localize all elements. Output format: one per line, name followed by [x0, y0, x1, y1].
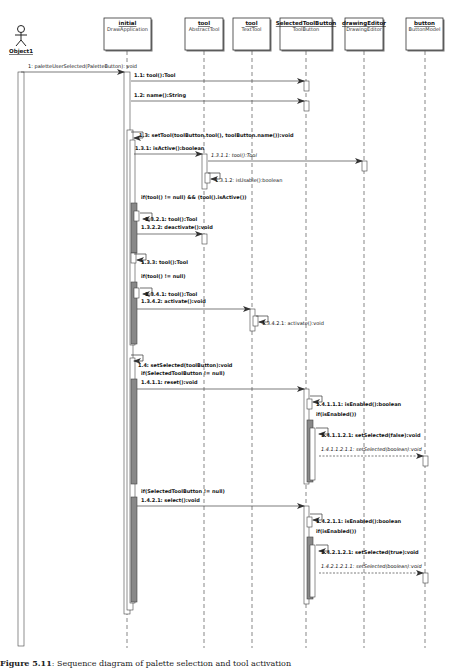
figure-caption: Figure 5.11: Sequence diagram of palette… [0, 658, 453, 668]
activation-bar [423, 456, 428, 466]
activation-bar [202, 154, 207, 189]
message-label: 1.2: name():String [134, 92, 186, 99]
actor-object1: Object1 [9, 26, 33, 56]
message-m1_4_1_1_2_1_1: 1.4.1.1.2.1.1: setSelected(boolean):void [319, 446, 423, 456]
message-label: 1.3.4.2.1: activate():void [262, 320, 324, 326]
lifeline-tool2: toolTextTool [233, 18, 272, 648]
message-m1_4: 1.4: setSelected(toolButton):void [131, 355, 233, 368]
message-label: 1.3.1: isActive():boolean [135, 145, 205, 151]
message-label: 1.3.2.1: tool():Tool [145, 216, 198, 222]
message-m1_3_4_2: 1.3.4.2: activate():void [137, 298, 250, 309]
message-label: 1.4: setSelected(toolButton):void [138, 362, 233, 368]
message-m1_2: 1.2: name():String [131, 92, 304, 101]
guard-condition: if(tool() != null) [141, 273, 186, 279]
activation-bar [253, 316, 258, 326]
message-m1_4_1_1_2_1: 1.4.1.1.2.1: setSelected(false):void [316, 428, 421, 438]
message-label: 1.3.4.2: activate():void [141, 298, 206, 304]
guard-condition: if(SelectedToolButton != null) [141, 370, 225, 376]
messages: 1: paletteUserSelected(PaletteButton): v… [21, 63, 423, 573]
message-m1_3_3: 1.3.3: tool():Tool [134, 254, 188, 265]
message-label: 1: paletteUserSelected(PaletteButton): v… [28, 63, 137, 70]
activation-bar [131, 253, 136, 263]
guard-condition: if(isEnabled()) [316, 528, 356, 534]
guard-condition: if(isEnabled()) [316, 411, 356, 417]
figure-caption-label: Figure 5.11 [0, 658, 52, 668]
message-m1_4_1_1_1: 1.4.1.1.1: isEnabled():boolean [310, 396, 402, 407]
message-label: 1.4.1.1.1: isEnabled():boolean [316, 401, 402, 407]
sequence-diagram: Object1 initialDrawApplicationtoolAbstra… [0, 0, 453, 668]
message-m1_3_4_2_1: 1.3.4.2.1: activate():void [256, 316, 324, 326]
message-label: 1.3.2.2: deactivate():void [141, 224, 213, 230]
activation-bar [131, 203, 137, 253]
lifeline-type: AbstractTool [189, 26, 220, 32]
message-m1_3_1_2: 1.3.1.2: isUsable():boolean [208, 173, 282, 183]
message-m1_3_4_1: 1.3.4.1: tool():Tool [140, 288, 198, 297]
message-label: 1.3.1.1: tool():Tool [211, 152, 257, 158]
lifeline-type: ButtonModel [409, 26, 441, 32]
activation-bar [304, 101, 309, 111]
message-m1_4_2_1: 1.4.2.1: select():void [137, 497, 304, 506]
message-label: 1.3.4.1: tool():Tool [145, 291, 198, 297]
message-m1_3: 1.3: setTool(toolButton.tool(), toolButt… [131, 132, 294, 138]
message-label: 1.4.2.1.2.1: setSelected(true):void [321, 549, 419, 555]
message-label: 1.4.2.1.2.1.1: setSelected(boolean):void [321, 563, 422, 569]
message-label: 1.4.1.1.2.1: setSelected(false):void [321, 432, 421, 438]
message-label: 1.4.2.1.1: isEnabled():boolean [316, 518, 402, 524]
activation-bar [134, 288, 139, 298]
message-m1_4_2_1_2_1_1: 1.4.2.1.2.1.1: setSelected(boolean):void [319, 563, 423, 573]
message-m1: 1: paletteUserSelected(PaletteButton): v… [21, 63, 137, 72]
message-label: 1.3.1.2: isUsable():boolean [215, 177, 282, 183]
activation-bar [310, 428, 315, 480]
activation-bars [18, 72, 428, 646]
message-m1_4_2_1_2_1: 1.4.2.1.2.1: setSelected(true):void [316, 545, 419, 555]
message-m1_3_2_1: 1.3.2.1: tool():Tool [140, 213, 198, 222]
actor-label: Object1 [9, 48, 33, 55]
lifeline-type: TextTool [241, 26, 262, 32]
message-m1_3_2_2: 1.3.2.2: deactivate():void [137, 224, 213, 234]
actor-stick-figure-icon [15, 26, 27, 47]
figure-caption-text: : Sequence diagram of palette selection … [52, 659, 291, 668]
activation-bar [304, 81, 309, 91]
guard-condition: if(tool() != null) && (tool().isActive()… [141, 194, 247, 200]
lifeline-type: ToolButton [292, 26, 319, 32]
lifeline-type: DrawingEditor [346, 26, 383, 33]
guard-condition: if(SelectedToolButton != null) [141, 488, 225, 494]
message-label: 1.3: setTool(toolButton.tool(), toolButt… [139, 132, 294, 138]
activation-bar [18, 72, 24, 646]
activation-bar [131, 379, 137, 484]
message-label: 1.1: tool():Tool [134, 72, 176, 78]
message-m1_4_2_1_1: 1.4.2.1.1: isEnabled():boolean [310, 514, 402, 524]
activation-bar [134, 211, 139, 221]
activation-bar [423, 573, 428, 583]
message-m1_3_1: 1.3.1: isActive():boolean [134, 145, 205, 154]
message-m1_4_1_1: 1.4.1.1: reset():void [137, 379, 304, 389]
activation-bar [310, 545, 315, 597]
activation-bar [131, 497, 137, 602]
activation-bar [205, 173, 210, 183]
lifeline-type: DrawApplication [107, 26, 148, 33]
message-label: 1.4.1.1: reset():void [141, 379, 198, 385]
activation-bar [307, 399, 312, 409]
activation-bar [202, 234, 207, 244]
message-label: 1.3.3: tool():Tool [141, 259, 188, 265]
message-m1_1: 1.1: tool():Tool [131, 72, 304, 81]
message-m1_3_1_1: 1.3.1.1: tool():Tool [208, 152, 362, 161]
activation-bar [307, 517, 312, 527]
lifeline-tool: toolAbstractTool [185, 18, 225, 648]
message-label: 1.4.2.1: select():void [141, 497, 200, 503]
activation-bar [362, 161, 367, 171]
message-label: 1.4.1.1.2.1.1: setSelected(boolean):void [321, 446, 422, 452]
